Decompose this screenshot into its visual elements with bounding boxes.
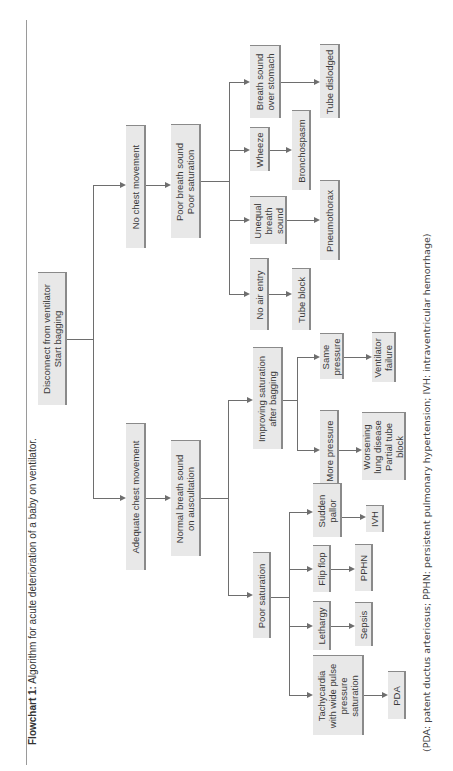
bronchospasm-label: Bronchospasm bbox=[295, 119, 306, 182]
improving-saturation-box: Improving saturation after bagging bbox=[253, 347, 283, 449]
finding-box: Breath sound over stomach bbox=[250, 45, 281, 118]
cause-box: Bronchospasm bbox=[292, 110, 311, 190]
pda-label: PDA bbox=[391, 686, 402, 706]
caption-text: Algorithm for acute deterioration of a b… bbox=[27, 438, 38, 686]
connector bbox=[342, 517, 360, 518]
ventilator-failure-label: Ventilator failure bbox=[372, 338, 394, 378]
more-pressure-label: More pressure bbox=[323, 420, 334, 481]
connector bbox=[297, 357, 314, 358]
wheeze-label: Wheeze bbox=[254, 132, 265, 167]
lethargy-label: Lethargy bbox=[316, 608, 327, 645]
connector bbox=[229, 82, 245, 83]
caption-label: Flowchart 1: bbox=[27, 686, 38, 745]
pphn-label: PPHN bbox=[358, 555, 369, 581]
finding-box: Lethargy bbox=[313, 601, 331, 650]
finding-box: Sudden pallor bbox=[313, 483, 342, 537]
tachycardia-label: Tachycardia with wide pulse pressure sat… bbox=[316, 663, 360, 727]
cause-box: Ventilator failure bbox=[372, 332, 396, 382]
flip-flop-label: Flip flop bbox=[316, 552, 327, 585]
connector bbox=[297, 450, 314, 451]
breath-sound-over-stomach-label: Breath sound over stomach bbox=[254, 53, 276, 110]
connector bbox=[271, 597, 290, 598]
connector bbox=[67, 339, 94, 340]
connector bbox=[297, 357, 298, 450]
connector bbox=[283, 400, 298, 401]
finding-box: Tachycardia with wide pulse pressure sat… bbox=[313, 655, 364, 735]
connector bbox=[289, 695, 308, 696]
worsening-lung-disease-label: Worsening lung disease Partial tube bloc… bbox=[361, 420, 405, 473]
poor-saturation-box: Poor saturation bbox=[253, 552, 271, 638]
no-chest-movement-box: No chest movement bbox=[126, 125, 146, 248]
connector bbox=[344, 357, 366, 358]
connector bbox=[201, 181, 230, 182]
finding-box: Same pressure bbox=[320, 333, 344, 379]
sepsis-label: Sepsis bbox=[358, 610, 369, 639]
connector bbox=[364, 695, 382, 696]
connector bbox=[228, 595, 248, 596]
cause-box: IVH bbox=[366, 505, 384, 532]
connector bbox=[228, 400, 229, 595]
connector bbox=[281, 82, 314, 83]
finding-box: Unequal breath sound bbox=[250, 196, 287, 244]
root-label: Disconnect from ventilator Start bagging bbox=[41, 284, 63, 394]
connector bbox=[93, 185, 94, 498]
cause-box: PDA bbox=[388, 671, 406, 719]
poor-breath-sound-box: Poor breath sound Poor saturation bbox=[171, 124, 201, 238]
connector bbox=[269, 294, 286, 295]
connector bbox=[93, 498, 120, 499]
root-box: Disconnect from ventilator Start bagging bbox=[38, 272, 67, 405]
tube-block-label: Tube block bbox=[295, 276, 306, 322]
connector bbox=[228, 400, 248, 401]
figure-caption: Flowchart 1: Algorithm for acute deterio… bbox=[27, 438, 38, 745]
connector bbox=[289, 512, 290, 695]
connector bbox=[289, 512, 308, 513]
connector bbox=[331, 626, 349, 627]
connector bbox=[289, 626, 308, 627]
finding-box: Wheeze bbox=[250, 127, 270, 171]
connector bbox=[270, 150, 286, 151]
tube-dislodged-label: Tube dislodged bbox=[324, 49, 335, 114]
adequate-chest-movement-box: Adequate chest movement bbox=[126, 423, 146, 570]
pneumothorax-label: Pneumothorax bbox=[324, 190, 335, 252]
cause-box: Worsening lung disease Partial tube bloc… bbox=[362, 412, 406, 480]
no-chest-movement-label: No chest movement bbox=[130, 145, 141, 229]
finding-box: More pressure bbox=[320, 410, 339, 491]
connector bbox=[331, 569, 349, 570]
connector bbox=[229, 82, 230, 294]
connector bbox=[229, 150, 245, 151]
connector bbox=[93, 185, 120, 186]
sudden-pallor-label: Sudden pallor bbox=[316, 494, 338, 527]
improving-saturation-label: Improving saturation after bagging bbox=[256, 355, 278, 441]
normal-breath-sound-label: Normal breath sound on auscultation bbox=[174, 454, 196, 543]
finding-box: No air entry bbox=[250, 258, 269, 330]
cause-box: Tube dislodged bbox=[320, 44, 340, 118]
unequal-breath-sound-label: Unequal breath sound bbox=[251, 203, 284, 238]
footnote: (PDA: patent ductus arteriosus; PPHN: pe… bbox=[421, 234, 432, 753]
connector bbox=[201, 498, 229, 499]
connector bbox=[229, 220, 245, 221]
cause-box: Pneumothorax bbox=[320, 180, 340, 260]
connector bbox=[146, 498, 165, 499]
connector bbox=[146, 185, 165, 186]
footnote-text: (PDA: patent ductus arteriosus; PPHN: pe… bbox=[421, 234, 432, 753]
connector bbox=[339, 450, 356, 451]
ivh-label: IVH bbox=[369, 511, 380, 527]
poor-saturation-label: Poor saturation bbox=[256, 563, 267, 627]
connector bbox=[229, 294, 245, 295]
no-air-entry-label: No air entry bbox=[253, 270, 264, 319]
same-pressure-label: Same pressure bbox=[320, 338, 342, 375]
cause-box: PPHN bbox=[355, 544, 373, 591]
cause-box: Tube block bbox=[292, 268, 311, 330]
connector bbox=[287, 220, 314, 221]
cause-box: Sepsis bbox=[355, 602, 373, 646]
poor-breath-sound-label: Poor breath sound Poor saturation bbox=[174, 142, 196, 220]
adequate-chest-movement-label: Adequate chest movement bbox=[130, 440, 141, 553]
normal-breath-sound-box: Normal breath sound on auscultation bbox=[171, 440, 201, 556]
connector bbox=[289, 569, 308, 570]
finding-box: Flip flop bbox=[313, 545, 331, 592]
